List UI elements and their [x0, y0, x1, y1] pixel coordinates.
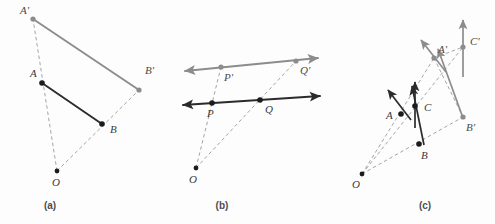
label-Qprime: Q' [300, 64, 311, 76]
point-Q [257, 97, 263, 103]
label-Aprime: A' [19, 4, 30, 16]
label-Bprime-c: B' [466, 121, 476, 133]
label-O-a: O [52, 176, 60, 188]
point-B [99, 121, 105, 127]
panel-a: A' B' A B O (a) [19, 4, 155, 211]
point-Aprime [30, 16, 35, 21]
segment-AprimeBprime [33, 19, 139, 90]
point-A-c [398, 111, 404, 117]
panel-c: A' C' B' A C B O (c) [352, 20, 480, 211]
label-Cprime-c: C' [470, 35, 480, 47]
label-C-c: C [424, 101, 432, 113]
point-Qprime [293, 58, 298, 63]
panel-c-rays [362, 47, 463, 174]
label-Q: Q [265, 103, 273, 115]
label-B: B [110, 123, 117, 135]
panel-b: P' Q' P Q O (b) [183, 58, 320, 211]
label-B-c: B [421, 149, 428, 161]
label-O-b: O [189, 173, 197, 185]
label-Aprime-c: A' [437, 43, 448, 55]
point-P [209, 100, 215, 106]
panel-a-rays [33, 19, 139, 171]
ray-O-to-Cprime-c [362, 47, 463, 174]
point-B-c [416, 141, 422, 147]
point-Bprime-c [460, 114, 465, 119]
point-C-c [412, 103, 418, 109]
vector-at-B [412, 86, 424, 145]
line-PQ [183, 96, 320, 105]
ray-O-to-Bprime-c [362, 117, 463, 174]
geometry-figure: A' B' A B O (a) P' Q' P Q O (b) [0, 0, 495, 224]
vector-at-Bprime [438, 49, 463, 118]
point-A [39, 80, 45, 86]
segment-AB [42, 83, 102, 124]
point-O-b [194, 166, 199, 171]
point-O-c [360, 172, 365, 177]
ray-O-to-Aprime [33, 19, 57, 171]
label-Pprime: P' [223, 71, 234, 83]
figure-root: A' B' A B O (a) P' Q' P Q O (b) [0, 0, 495, 224]
caption-panel-c: (c) [419, 200, 431, 211]
point-Pprime [218, 64, 223, 69]
label-A-c: A [385, 109, 393, 121]
point-Aprime-c [431, 55, 436, 60]
label-P: P [206, 107, 214, 119]
caption-panel-a: (a) [44, 200, 56, 211]
label-A: A [29, 67, 37, 79]
label-Bprime: B' [145, 64, 155, 76]
point-Cprime-c [460, 44, 465, 49]
caption-panel-b: (b) [216, 200, 229, 211]
point-Bprime [136, 87, 141, 92]
label-O-c: O [352, 178, 360, 190]
point-O-a [55, 169, 60, 174]
